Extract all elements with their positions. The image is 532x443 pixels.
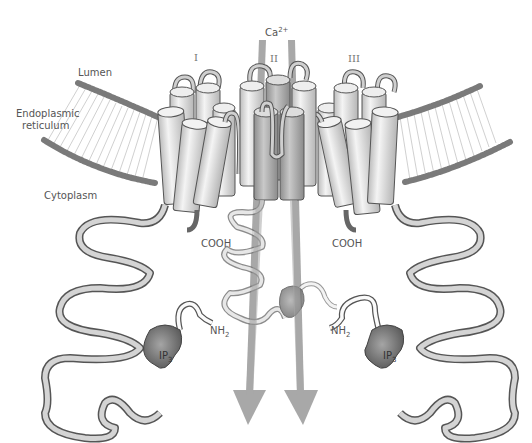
membrane-left: [44, 83, 160, 183]
subunit-ii-helices: [240, 63, 316, 200]
nh2-right-sub: 2: [346, 331, 350, 339]
calcium-flow-overlay: [246, 200, 304, 395]
label-ip3-left: IP3: [159, 350, 172, 366]
subunit-iii-helices: [306, 72, 398, 215]
label-cooh-right: COOH: [332, 238, 362, 249]
nh2-left-sub: 2: [225, 331, 229, 339]
calcium-charge: 2+: [278, 26, 288, 34]
label-endoplasmic: Endoplasmic: [16, 108, 80, 119]
subunit-i-helices: [157, 72, 239, 213]
label-subunit-i: I: [194, 52, 198, 63]
membrane-right: [398, 86, 510, 182]
label-nh2-right: NH2: [331, 325, 350, 341]
label-ip3-right: IP3: [383, 350, 396, 366]
label-calcium-ion: Ca2+: [265, 25, 288, 38]
label-subunit-ii: II: [270, 53, 278, 64]
label-cytoplasm: Cytoplasm: [44, 190, 97, 201]
label-subunit-iii: III: [348, 53, 360, 64]
label-reticulum: reticulum: [22, 120, 69, 131]
ip3-right-text: IP: [383, 350, 392, 361]
ip3-receptor-diagram: Lumen Endoplasmic reticulum Cytoplasm Ca…: [0, 0, 532, 443]
calcium-symbol: Ca: [265, 27, 278, 38]
ip3-left-text: IP: [159, 350, 168, 361]
cytoplasmic-domain-center: [224, 200, 337, 322]
ip3-left-sub: 3: [168, 356, 172, 364]
label-cooh-left: COOH: [201, 238, 231, 249]
ip3-right-sub: 3: [392, 356, 396, 364]
label-lumen: Lumen: [78, 67, 112, 78]
nh2-right-text: NH: [331, 325, 346, 336]
label-nh2-left: NH2: [210, 325, 229, 341]
nh2-left-text: NH: [210, 325, 225, 336]
cytoplasmic-domain-left: [45, 205, 212, 439]
